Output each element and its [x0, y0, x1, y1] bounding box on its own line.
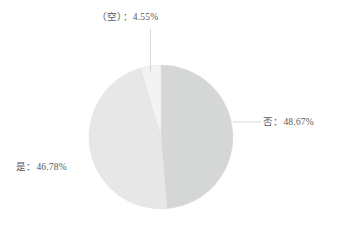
pie-label-empty: （空）：4.55%	[97, 11, 158, 23]
pie-chart: （空）：4.55% 否：48.67% 是：46.78%	[0, 0, 340, 232]
pie-label-yes: 是：46.78%	[16, 161, 67, 173]
pie-slice-no[interactable]	[161, 65, 233, 209]
pie-label-no: 否：48.67%	[263, 116, 314, 128]
